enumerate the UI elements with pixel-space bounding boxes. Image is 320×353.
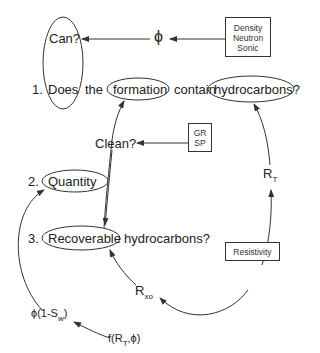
gr-log: GR xyxy=(189,128,211,138)
word-contain: contain xyxy=(174,83,216,97)
word-hydrocarbons: hydrocarbons? xyxy=(214,83,300,97)
word-formation: formation xyxy=(113,83,167,97)
word-does: Does xyxy=(48,83,78,97)
question-2-number: 2. xyxy=(28,175,39,189)
quantity-label: Quantity xyxy=(48,175,96,189)
sp-log: SP xyxy=(189,138,211,148)
question-3-number: 3. xyxy=(28,232,39,246)
question-1-number: 1. xyxy=(32,83,43,97)
rt-label: RT xyxy=(263,167,277,183)
word-the: the xyxy=(85,83,103,97)
clean-label: Clean? xyxy=(95,137,136,151)
hc-volume-label: ϕ(1-Sw) xyxy=(31,306,67,322)
neutron-log: Neutron xyxy=(226,33,270,43)
can-label: Can? xyxy=(49,32,80,46)
sonic-log: Sonic xyxy=(226,43,270,53)
porosity-logs-box: Density Neutron Sonic xyxy=(225,17,271,57)
resistivity-box: Resistivity xyxy=(225,242,280,261)
shale-logs-box: GR SP xyxy=(188,123,212,152)
saturation-function-label: f(RT,ϕ) xyxy=(108,331,140,347)
hydrocarbons-rest: hydrocarbons? xyxy=(124,232,210,246)
density-log: Density xyxy=(226,23,270,33)
recoverable-label: Recoverable xyxy=(48,232,121,246)
rxo-label: Rxo xyxy=(135,284,153,300)
phi-symbol: ϕ xyxy=(154,30,163,44)
resistivity-label: Resistivity xyxy=(226,247,279,257)
